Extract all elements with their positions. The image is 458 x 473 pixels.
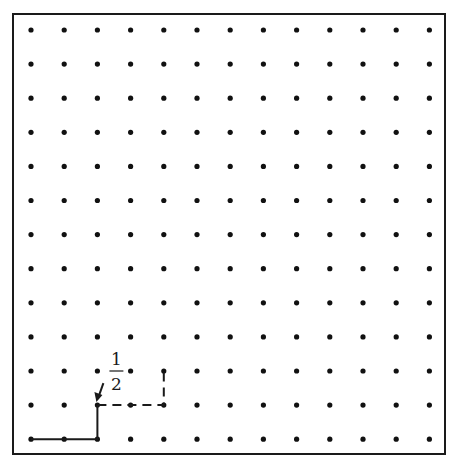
grid-dot xyxy=(427,403,432,408)
grid-dot xyxy=(360,130,365,135)
grid-dot xyxy=(360,437,365,442)
grid-dot xyxy=(161,437,166,442)
grid-dot xyxy=(360,164,365,169)
grid-dot xyxy=(327,62,332,67)
grid-dot xyxy=(28,232,33,237)
grid-dot xyxy=(394,232,399,237)
grid-dot xyxy=(261,96,266,101)
grid-dot xyxy=(394,437,399,442)
grid-dot xyxy=(261,437,266,442)
grid-dot xyxy=(427,437,432,442)
grid-dot xyxy=(194,96,199,101)
grid-dot xyxy=(294,403,299,408)
grid-dot xyxy=(95,96,100,101)
grid-dot xyxy=(62,130,67,135)
grid-dot xyxy=(95,232,100,237)
grid-dot xyxy=(394,266,399,271)
grid-dot xyxy=(62,164,67,169)
grid-dot xyxy=(28,266,33,271)
grid-dot xyxy=(294,27,299,32)
grid-dot xyxy=(194,62,199,67)
grid-dot xyxy=(62,62,67,67)
fraction-label: 1 2 xyxy=(109,349,123,394)
grid-dot xyxy=(161,27,166,32)
grid-dot xyxy=(427,334,432,339)
grid-dot xyxy=(394,164,399,169)
grid-dot xyxy=(28,96,33,101)
grid-dot xyxy=(327,232,332,237)
grid-dot xyxy=(228,198,233,203)
grid-dot xyxy=(228,368,233,373)
grid-dot xyxy=(228,130,233,135)
grid-dot xyxy=(427,62,432,67)
grid-dot xyxy=(95,164,100,169)
grid-dot xyxy=(228,96,233,101)
grid-dot xyxy=(62,232,67,237)
grid-dot xyxy=(28,62,33,67)
grid-dot xyxy=(360,198,365,203)
grid-dot xyxy=(427,130,432,135)
grid-dot xyxy=(95,334,100,339)
grid-dot xyxy=(261,403,266,408)
grid-dot xyxy=(194,198,199,203)
grid-dot xyxy=(128,130,133,135)
grid-dot xyxy=(261,130,266,135)
grid-dot xyxy=(228,266,233,271)
grid-dot xyxy=(327,164,332,169)
grid-dot xyxy=(394,300,399,305)
dot-grid xyxy=(28,27,432,441)
grid-dot xyxy=(161,164,166,169)
grid-dot xyxy=(128,437,133,442)
grid-dot xyxy=(95,300,100,305)
grid-dot xyxy=(228,300,233,305)
grid-dot xyxy=(360,62,365,67)
grid-dot xyxy=(327,266,332,271)
grid-dot xyxy=(294,96,299,101)
grid-dot xyxy=(228,232,233,237)
grid-dot xyxy=(194,368,199,373)
grid-dot xyxy=(294,130,299,135)
grid-dot xyxy=(360,300,365,305)
solid-path xyxy=(31,405,97,439)
grid-dot xyxy=(427,164,432,169)
grid-dot xyxy=(394,96,399,101)
grid-dot xyxy=(28,368,33,373)
grid-dot xyxy=(194,130,199,135)
grid-dot xyxy=(394,334,399,339)
grid-dot xyxy=(128,62,133,67)
grid-dot xyxy=(327,437,332,442)
grid-dot xyxy=(360,334,365,339)
grid-dot xyxy=(62,300,67,305)
grid-dot xyxy=(194,164,199,169)
grid-dot xyxy=(294,164,299,169)
grid-dot xyxy=(161,266,166,271)
grid-dot xyxy=(294,232,299,237)
grid-dot xyxy=(394,130,399,135)
grid-dot xyxy=(360,96,365,101)
grid-dot xyxy=(194,437,199,442)
arrow-icon xyxy=(94,383,103,402)
grid-dot xyxy=(327,403,332,408)
grid-dot xyxy=(261,368,266,373)
grid-dot xyxy=(95,368,100,373)
grid-dot xyxy=(194,266,199,271)
grid-dot xyxy=(261,300,266,305)
fraction-numerator: 1 xyxy=(111,349,122,369)
grid-dot xyxy=(427,368,432,373)
grid-dot xyxy=(427,96,432,101)
grid-dot xyxy=(161,130,166,135)
grid-dot xyxy=(228,334,233,339)
grid-dot xyxy=(261,164,266,169)
grid-dot xyxy=(62,368,67,373)
grid-dot xyxy=(327,300,332,305)
grid-dot xyxy=(95,130,100,135)
grid-dot xyxy=(128,266,133,271)
grid-dot xyxy=(28,130,33,135)
grid-dot xyxy=(394,62,399,67)
grid-dot xyxy=(427,27,432,32)
grid-dot xyxy=(28,403,33,408)
grid-dot xyxy=(128,96,133,101)
fraction-denominator: 2 xyxy=(111,374,122,394)
grid-dot xyxy=(161,334,166,339)
grid-dot xyxy=(261,266,266,271)
